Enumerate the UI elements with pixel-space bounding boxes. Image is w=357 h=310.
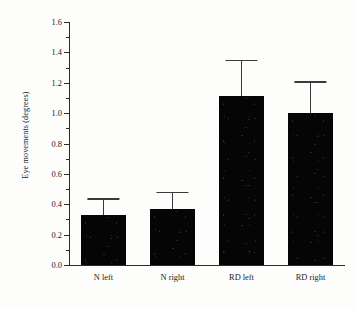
y-tick-mark [66,250,69,251]
x-tick-label: RD right [296,273,326,282]
y-tick-mark [66,37,69,38]
y-tick-label: 0.6 [52,169,62,178]
error-bar-cap [226,60,257,61]
y-tick-label: 0.8 [52,139,62,148]
y-tick-mark [66,98,69,99]
plot-area: 0.00.20.40.60.81.01.21.41.6 N leftN righ… [69,22,345,265]
y-tick-mark [66,68,69,69]
bar [288,113,333,265]
y-tick-mark [64,52,69,53]
error-bar [288,81,333,113]
error-bar-stem [103,198,104,215]
error-bar [219,60,264,96]
error-bar-cap [157,192,188,193]
y-axis-title: Eye movements (degrees) [18,0,34,290]
y-tick-mark [66,219,69,220]
bar [150,209,195,265]
y-tick-label: 0.0 [52,261,62,270]
bar [219,96,264,265]
y-tick-mark [64,22,69,23]
y-tick-mark [64,265,69,266]
error-bar-stem [310,81,311,113]
y-tick-mark [66,128,69,129]
x-tick-label: N left [94,273,113,282]
bar [81,215,126,265]
y-tick-mark [66,189,69,190]
y-tick-label: 0.4 [52,200,62,209]
y-tick-label: 1.2 [52,78,62,87]
y-tick-mark [64,235,69,236]
y-tick-mark [66,159,69,160]
error-bar [150,192,195,209]
y-axis-line [69,22,70,265]
y-tick-mark [64,113,69,114]
bar-chart-figure: Eye movements (degrees) 0.00.20.40.60.81… [0,0,357,310]
y-tick-label: 0.2 [52,230,62,239]
x-tick-label: N right [161,273,185,282]
y-tick-label: 1.6 [52,18,62,27]
y-tick-mark [64,144,69,145]
error-bar-stem [172,192,173,209]
error-bar [81,198,126,215]
y-tick-label: 1.0 [52,109,62,118]
y-tick-mark [64,204,69,205]
y-tick-label: 1.4 [52,48,62,57]
y-tick-mark [64,174,69,175]
error-bar-cap [295,81,326,82]
y-tick-mark [64,83,69,84]
error-bar-cap [88,198,119,199]
error-bar-stem [241,60,242,96]
x-tick-label: RD left [229,273,254,282]
x-axis-line [69,265,345,266]
